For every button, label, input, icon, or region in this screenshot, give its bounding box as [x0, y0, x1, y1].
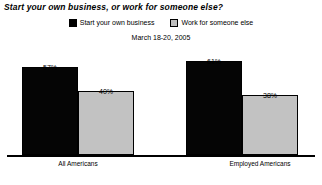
bar-all-americans-work-for-someone-else — [78, 91, 134, 155]
bar-all-americans-start-your-own-business — [22, 67, 78, 155]
bar-employed-americans-work-for-someone-else — [242, 95, 298, 155]
bar-value-all-americans-start-your-own-business: 57% — [22, 64, 78, 71]
chart-title: Start your own business, or work for som… — [4, 2, 223, 12]
gray-square-icon — [170, 19, 178, 27]
black-square-icon — [69, 19, 77, 27]
chart-subtitle-date: March 18-20, 2005 — [0, 34, 322, 41]
chart-legend: Start your own business Work for someone… — [0, 18, 322, 27]
x-axis-label-all-americans: All Americans — [48, 160, 108, 167]
x-axis-label-employed-americans: Employed Americans — [212, 160, 308, 167]
bar-chart: Start your own business, or work for som… — [0, 0, 322, 185]
legend-label-series-2: Work for someone else — [181, 18, 253, 27]
legend-entry-work-for-someone-else: Work for someone else — [170, 18, 253, 27]
bar-value-employed-americans-start-your-own-business: 61% — [186, 58, 242, 65]
legend-label-series-1: Start your own business — [80, 18, 155, 27]
bar-value-all-americans-work-for-someone-else: 40% — [78, 88, 134, 95]
legend-entry-start-your-own-business: Start your own business — [69, 18, 155, 27]
x-axis-baseline — [7, 155, 315, 157]
bar-value-employed-americans-work-for-someone-else: 38% — [242, 92, 298, 99]
bar-employed-americans-start-your-own-business — [186, 61, 242, 155]
